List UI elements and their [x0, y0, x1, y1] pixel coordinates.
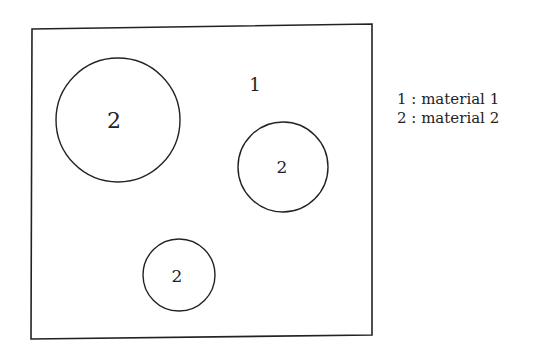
composite-domain-diagram: 1 2 2 2: [0, 0, 539, 360]
inclusion-label-3: 2: [172, 266, 183, 286]
legend-item-material-1: 1 : material 1: [397, 90, 499, 109]
matrix-label: 1: [249, 74, 260, 95]
legend-item-material-2: 2 : material 2: [397, 109, 499, 128]
inclusion-label-1: 2: [107, 108, 121, 133]
inclusion-label-2: 2: [277, 157, 288, 177]
legend: 1 : material 1 2 : material 2: [397, 90, 499, 128]
domain-boundary: [31, 24, 372, 339]
